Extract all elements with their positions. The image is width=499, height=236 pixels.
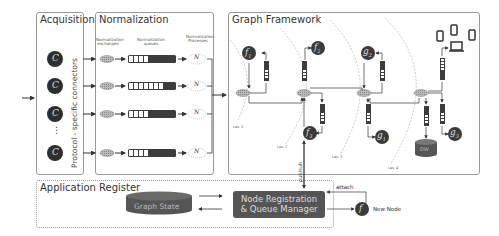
connector-c2: C [52,80,59,90]
norm-processes-label: Normalization Processes [186,35,210,43]
graph-state-label: Graph State [134,202,179,211]
level-2-label: Lev. 2 [277,145,287,149]
dw-label: DW [420,146,429,152]
manager-line-1: Node Registration [233,194,325,204]
level-arcs [230,18,416,165]
norm-exchanges-label: Normalization exchanges [96,38,120,46]
normalization-rows [100,54,206,158]
node-g3: g3 [450,127,459,139]
manager-line-2: & Queue Manager [233,204,325,214]
norm-process-n1: N [194,53,199,60]
node-f3: f3 [306,127,313,139]
connector-c1: C [52,53,59,63]
node-g1: g1 [377,130,386,142]
node-registration-manager: Node Registration & Queue Manager [233,191,325,218]
level-4-label: Lev. 4 [388,166,398,170]
protocol-connectors-label: Protocol - specific connectors [70,58,79,168]
new-node-symbol: f [359,203,362,213]
connector-c4: C [52,147,59,157]
norm-process-n2: N [194,80,199,87]
connector-ellipsis: ⋮ [52,125,61,135]
connector-nodes [47,51,63,161]
node-f1: f1 [245,47,252,59]
norm-process-n4: N [194,147,199,154]
attach-label: attach [336,184,354,190]
level-1-label: Lev. 1 [233,125,243,129]
new-node-label: New Node [373,206,401,212]
node-f2: f2 [314,42,321,54]
device-icons [437,25,475,51]
graph-node-circles [242,41,462,144]
connector-c3: C [52,108,59,118]
node-g2: g2 [363,46,372,58]
pubsub-label: pub/sub [297,162,303,182]
level-3-label: Lev. 3 [332,155,342,159]
norm-process-n3: N [194,108,199,115]
norm-queues-label: Normalization queues [136,38,166,46]
